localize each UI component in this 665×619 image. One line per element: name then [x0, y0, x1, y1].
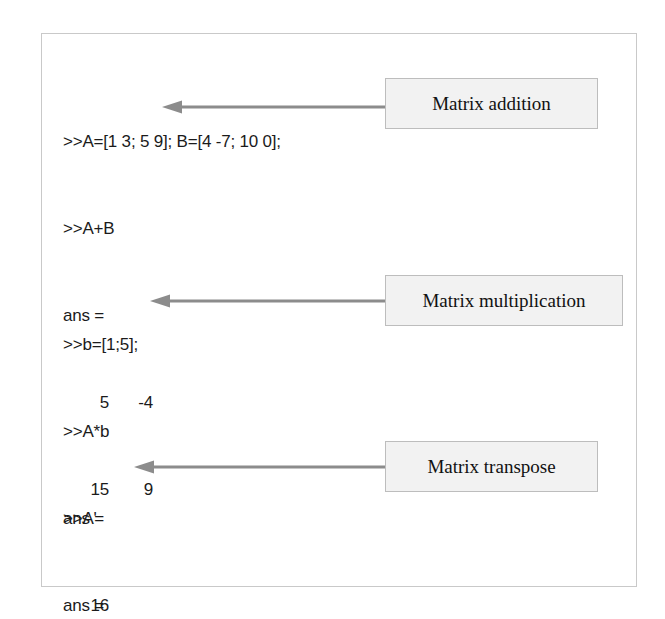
console-line: >>A=[1 3; 5 9]; B=[4 -7; 10 0]; [63, 127, 281, 156]
console-block-matrix-transpose: >>A' ans = 1 5 3 9 [63, 446, 153, 619]
callout-label: Matrix transpose [427, 456, 555, 478]
slide-frame: >>A=[1 3; 5 9]; B=[4 -7; 10 0]; >>A+B an… [41, 33, 637, 587]
callout-label: Matrix multiplication [422, 290, 585, 312]
console-line: >>A' [63, 504, 153, 533]
console-line: >>A*b [63, 417, 138, 446]
callout-matrix-transpose[interactable]: Matrix transpose [385, 441, 598, 492]
console-line: >>b=[1;5]; [63, 330, 138, 359]
callout-label: Matrix addition [432, 93, 551, 115]
callout-matrix-multiplication[interactable]: Matrix multiplication [385, 275, 623, 326]
console-line: ans = [63, 591, 153, 619]
callout-matrix-addition[interactable]: Matrix addition [385, 78, 598, 129]
console-line: >>A+B [63, 214, 281, 243]
